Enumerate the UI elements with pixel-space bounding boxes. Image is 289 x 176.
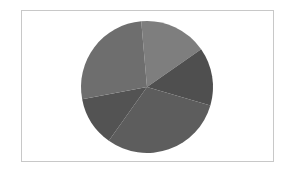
pie-slice-5 (81, 21, 147, 99)
pie-chart (0, 0, 289, 176)
